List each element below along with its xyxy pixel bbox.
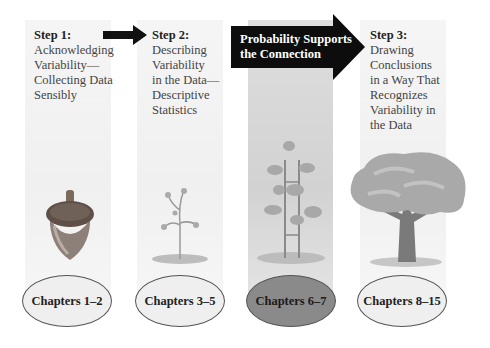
right-arrow-icon — [103, 25, 147, 45]
step1-heading: Step 1: — [34, 28, 114, 43]
oak-tree-icon — [344, 150, 474, 268]
seedling-icon — [150, 185, 210, 265]
chapters-1-2-badge: Chapters 1–2 — [22, 275, 112, 327]
step1-text: Step 1: Acknowledging Variability— Colle… — [34, 28, 114, 103]
step2-text: Step 2: Describing Variability in the Da… — [152, 28, 219, 118]
step3-text: Step 3: Drawing Conclusions in a Way Tha… — [370, 28, 440, 133]
step2-body: Describing Variability in the Data— Desc… — [152, 43, 219, 118]
sapling-icon — [253, 140, 329, 265]
chapters-8-15-badge: Chapters 8–15 — [357, 275, 447, 327]
step3-body: Drawing Conclusions in a Way That Recogn… — [370, 43, 440, 133]
chapters-6-7-badge: Chapters 6–7 — [246, 275, 336, 327]
chapters-3-5-badge: Chapters 3–5 — [135, 275, 225, 327]
step2-heading: Step 2: — [152, 28, 219, 43]
step3-heading: Step 3: — [370, 28, 440, 43]
probability-label: Probability Supports the Connection — [240, 32, 352, 62]
acorn-icon — [44, 190, 96, 262]
step1-body: Acknowledging Variability— Collecting Da… — [34, 43, 114, 103]
